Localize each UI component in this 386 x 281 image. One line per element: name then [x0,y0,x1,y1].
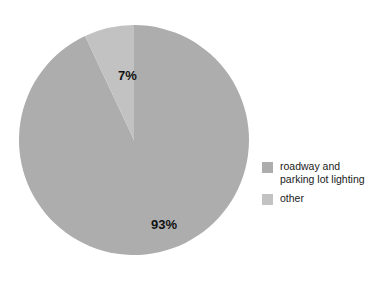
legend-swatch-roadway-icon [262,162,273,173]
legend-swatch-other-icon [262,194,273,205]
pie-data-label-roadway: 93% [151,217,177,232]
legend-item-other[interactable]: other [262,192,384,205]
legend-label-other: other [280,192,304,205]
pie-svg [19,25,249,255]
pie-chart-figure: 7% 93% roadway and parking lot lighting … [0,0,386,281]
legend-item-roadway[interactable]: roadway and parking lot lighting [262,160,384,185]
pie-chart-plot-area: 7% 93% [19,25,249,255]
legend-label-roadway: roadway and parking lot lighting [280,160,365,185]
chart-legend: roadway and parking lot lighting other [262,160,384,212]
pie-data-label-other: 7% [118,68,137,83]
